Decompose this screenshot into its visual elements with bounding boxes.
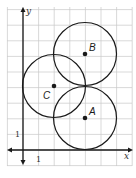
x-tick-label: 1: [36, 155, 41, 164]
center-point-c: [52, 84, 57, 89]
center-point-a: [83, 116, 88, 121]
x-axis-label: x: [124, 151, 129, 161]
grid: [7, 7, 132, 166]
coordinate-plane-diagram: y x 1 1 A B C: [0, 0, 136, 178]
label-a: A: [88, 106, 96, 117]
label-c: C: [43, 90, 51, 101]
y-axis-down-arrow-icon: [21, 160, 26, 165]
y-axis-label: y: [25, 6, 32, 16]
center-point-b: [83, 52, 88, 57]
label-b: B: [89, 42, 96, 53]
y-tick-label: 1: [15, 130, 20, 139]
